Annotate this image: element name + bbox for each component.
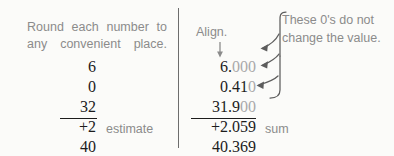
align-label: Align. [196,24,227,41]
estimate-addend: 6 [20,57,96,77]
sum-addend: 6.000 [190,57,256,77]
estimate-addend-column: 6 0 32 +2 40 [20,57,96,156]
estimate-addend: 0 [20,77,96,97]
sum-label: sum [265,121,289,138]
sum-rule [191,118,256,119]
estimate-sum-rule [60,118,97,119]
significant-digits: +2.059 [211,118,256,135]
instruction-text: Round each number to any convenient plac… [27,19,167,53]
trailing-zeros: 000 [232,58,256,75]
sum-total: 40.369 [190,137,256,156]
panel-divider [178,8,179,148]
worksheet-figure: Round each number to any convenient plac… [0,0,394,156]
trailing-zeros: 0 [248,78,256,95]
instruction-line-2: any convenient place. [27,37,167,51]
curly-brace-icon [252,10,300,110]
estimate-total: 40 [20,137,96,156]
significant-digits: 0.41 [220,78,248,95]
significant-digits: 31.9 [212,98,240,115]
instruction-line-1: Round each number to [27,20,167,34]
significant-digits: 6. [220,58,232,75]
estimate-label: estimate [106,121,153,138]
sum-addend: +2.059 [190,117,256,137]
estimate-addend: +2 [20,117,96,137]
trailing-zeros: 00 [240,98,256,115]
sum-addend-column: 6.000 0.410 31.900 +2.059 40.369 [190,57,256,156]
estimate-addend: 32 [20,97,96,117]
sum-addend: 31.900 [190,97,256,117]
sum-addend: 0.410 [190,77,256,97]
